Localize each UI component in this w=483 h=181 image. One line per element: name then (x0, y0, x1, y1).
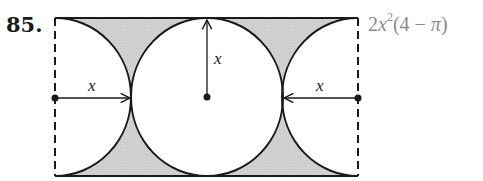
right-radius-label: x (315, 76, 324, 95)
center-dot (204, 94, 211, 101)
left-center-dot (52, 95, 59, 102)
shaded-region (0, 18, 434, 176)
right-center-dot (355, 95, 362, 102)
left-radius-label: x (87, 76, 96, 95)
geometry-diagram: x x x (0, 0, 483, 181)
top-radius-label: x (213, 49, 222, 68)
